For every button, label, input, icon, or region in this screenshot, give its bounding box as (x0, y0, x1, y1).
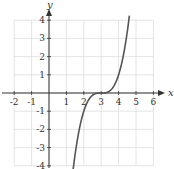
x-axis-label: x (168, 87, 174, 98)
y-tick-label: -3 (36, 143, 45, 153)
x-tick-label: 5 (133, 97, 139, 107)
x-tick-label: 1 (64, 97, 70, 107)
axes: xy (2, 0, 174, 168)
y-tick-label: -2 (36, 124, 45, 134)
y-tick-label: 4 (39, 15, 45, 25)
x-tick-label: -1 (27, 97, 36, 107)
y-tick-label: 2 (39, 52, 45, 62)
y-tick-label: -4 (36, 161, 45, 169)
x-tick-label: 3 (98, 97, 104, 107)
y-tick-label: -1 (36, 106, 45, 116)
x-axis-arrow-icon (158, 90, 165, 96)
y-axis-label: y (46, 0, 53, 10)
y-tick-label: 3 (39, 33, 45, 43)
x-tick-label: 4 (116, 97, 122, 107)
x-tick-label: -2 (10, 97, 19, 107)
y-tick-label: 1 (39, 70, 45, 80)
cubic-function-graph: xy -2-1123456-4-3-2-11234 (0, 0, 174, 169)
y-axis-arrow-icon (46, 9, 52, 16)
x-tick-label: 6 (151, 97, 157, 107)
